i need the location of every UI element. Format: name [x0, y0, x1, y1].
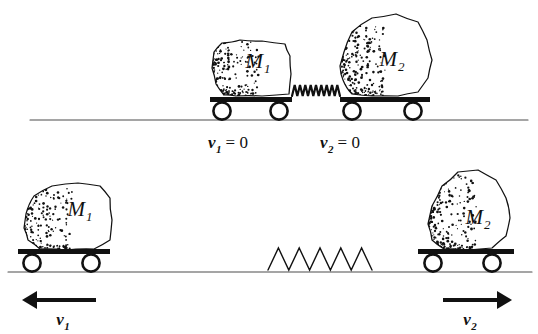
cart-m2: M2 [338, 14, 432, 120]
velocity-arrow-v2-label: v2 [463, 310, 477, 332]
cart-wheel [23, 254, 40, 271]
cart-m1: M1 [210, 40, 293, 120]
cart-wheel [82, 254, 99, 271]
physics-diagram-svg: M1M2v1= 0v2= 0M1M2v1v2 [0, 0, 538, 334]
cart-wheel [404, 102, 421, 119]
cart-wheel [213, 102, 230, 119]
compressed-spring [292, 85, 340, 96]
panel-after: M1M2v1v2 [8, 170, 532, 332]
panel-before: M1M2v1= 0v2= 0 [30, 14, 528, 155]
cart-wheel [343, 102, 360, 119]
velocity-arrow-v1-head [22, 291, 37, 309]
figure-canvas: M1M2v1= 0v2= 0M1M2v1v2 [0, 0, 538, 334]
relaxed-spring [268, 248, 372, 270]
cart-wheel [424, 254, 441, 271]
velocity-arrow-v2-head [497, 291, 512, 309]
cart-wheel [483, 254, 500, 271]
velocity-arrow-v1-label: v1 [56, 310, 70, 332]
velocity-v1-zero: v1= 0 [208, 133, 248, 155]
cart-m1: M1 [18, 183, 112, 272]
cart-wheel [270, 102, 287, 119]
velocity-v2-zero: v2= 0 [320, 133, 360, 155]
diagram-content: M1M2v1= 0v2= 0M1M2v1v2 [8, 14, 532, 332]
cart-m2: M2 [418, 170, 514, 272]
